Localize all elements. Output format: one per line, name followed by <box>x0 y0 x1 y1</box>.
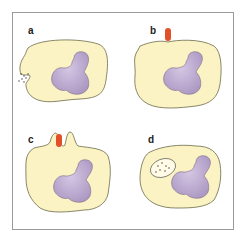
panel-label-b: b <box>150 25 156 36</box>
panel-c: c <box>26 132 110 212</box>
phagocytosis-diagram: a b c d <box>0 0 246 234</box>
panel-label-c: c <box>28 134 34 145</box>
panel-label-a: a <box>28 25 34 36</box>
panel-b: b <box>135 25 222 108</box>
panel-d: d <box>140 134 221 208</box>
red-object-c <box>56 134 62 147</box>
panel-a: a <box>18 25 107 102</box>
red-object-b <box>165 28 171 41</box>
cell-body-c <box>26 132 110 212</box>
panel-label-d: d <box>148 134 154 145</box>
